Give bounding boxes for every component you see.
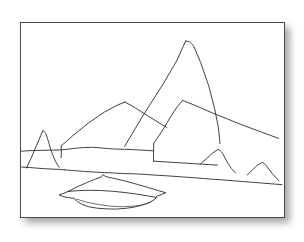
artwork-canvas: Desert Landscape Line Drawing A simple b…	[0, 0, 304, 242]
tall-peak-apex-curve	[186, 41, 194, 47]
right-hill-two-outline	[247, 162, 279, 181]
tall-peak-right-face	[194, 47, 220, 143]
upper-horizon-line	[21, 147, 153, 151]
right-mesa-right-slope	[183, 100, 279, 138]
picture-frame	[20, 22, 285, 218]
left-mesa-left-face	[61, 102, 125, 146]
landscape-line-drawing	[21, 23, 284, 217]
left-small-peak-outline	[26, 130, 59, 168]
foreground-rock-top-outline	[68, 175, 165, 193]
foreground-rock-left-tip	[59, 191, 73, 198]
foreground-rock-right-tip	[156, 193, 165, 197]
right-hill-one-outline	[200, 149, 235, 173]
left-mesa-right-slope	[125, 102, 167, 127]
foreground-rock-lower-outline	[74, 198, 157, 209]
foreground-rock-inner-crease	[77, 199, 151, 207]
foreground-rock-middle-seam	[68, 190, 156, 197]
upper-horizon-line-right	[154, 161, 218, 165]
left-peak-base-line	[21, 167, 64, 170]
lower-horizon-line	[65, 170, 282, 185]
tall-peak-left-face	[125, 41, 186, 146]
